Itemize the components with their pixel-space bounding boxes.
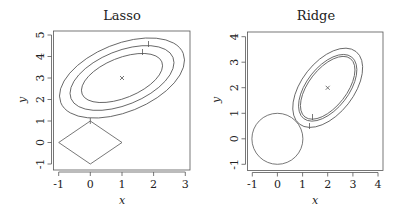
ridge-ytick: 3	[228, 59, 241, 66]
ridge-x-axis: -1 0 1 2 3 4 x	[247, 173, 382, 208]
ridge-panel: Ridge -1 0 1 2 3 4 x -1	[210, 8, 383, 207]
lasso-xtick: 0	[87, 178, 94, 191]
ridge-title: Ridge	[297, 8, 336, 23]
ridge-xlabel: x	[312, 194, 319, 207]
lasso-ylabel: y	[16, 96, 29, 104]
ridge-xtick: 2	[324, 178, 331, 191]
lasso-ytick: -1	[34, 159, 47, 170]
ridge-xtick: 1	[299, 178, 306, 191]
ridge-xtick: 3	[349, 178, 356, 191]
ridge-ylabel: y	[210, 96, 223, 104]
lasso-ytick: 5	[34, 32, 47, 39]
lasso-panel: Lasso -1 0 1 2 3 x -1 0	[16, 8, 196, 207]
lasso-xtick: -1	[53, 178, 64, 191]
lasso-center-marker	[120, 76, 124, 80]
ridge-ytick: -1	[228, 159, 241, 170]
ridge-circle-constraint	[252, 113, 303, 164]
lasso-title: Lasso	[103, 8, 141, 23]
ridge-xtick: 0	[274, 178, 281, 191]
lasso-x-axis: -1 0 1 2 3 x	[53, 172, 188, 207]
lasso-xtick: 2	[150, 178, 157, 191]
ridge-ytick: 4	[228, 33, 241, 40]
ridge-ytick: 0	[228, 135, 241, 142]
lasso-xtick: 1	[119, 178, 126, 191]
lasso-ytick: 3	[34, 75, 47, 82]
lasso-xlabel: x	[119, 194, 126, 207]
ridge-ytick: 2	[228, 84, 241, 91]
lasso-ytick: 1	[34, 118, 47, 125]
lasso-xtick: 3	[182, 178, 189, 191]
lasso-ytick: 0	[34, 139, 47, 146]
figure: Lasso -1 0 1 2 3 x -1 0	[0, 0, 398, 214]
lasso-ytick: 2	[34, 96, 47, 103]
lasso-diamond-constraint	[59, 121, 122, 164]
lasso-y-axis: -1 0 1 2 3 4 5 y	[16, 32, 52, 170]
ridge-center-marker	[326, 86, 330, 90]
ridge-ytick: 1	[228, 110, 241, 117]
ridge-y-axis: -1 0 1 2 3 4 y	[210, 33, 246, 169]
lasso-ytick: 4	[34, 53, 47, 60]
ridge-xtick: 4	[375, 178, 382, 191]
ridge-xtick: -1	[247, 178, 258, 191]
ridge-plot-box	[248, 32, 384, 171]
